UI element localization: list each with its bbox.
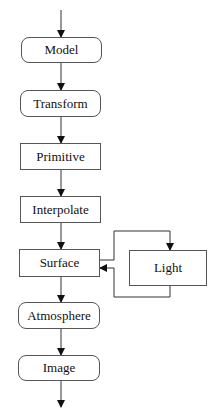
node-primitive: Primitive	[20, 143, 101, 170]
node-transform: Transform	[20, 90, 101, 117]
node-label: Image	[43, 360, 75, 376]
node-label: Primitive	[36, 149, 84, 165]
node-image: Image	[18, 355, 100, 381]
node-label: Light	[154, 260, 182, 276]
node-surface: Surface	[19, 249, 100, 277]
node-label: Model	[45, 42, 79, 58]
node-atmosphere: Atmosphere	[18, 302, 100, 329]
node-label: Interpolate	[32, 202, 88, 218]
node-model: Model	[21, 37, 102, 63]
node-light: Light	[129, 250, 207, 286]
node-label: Atmosphere	[27, 308, 91, 324]
node-label: Transform	[33, 96, 87, 112]
node-label: Surface	[40, 255, 80, 271]
node-interpolate: Interpolate	[20, 196, 101, 223]
